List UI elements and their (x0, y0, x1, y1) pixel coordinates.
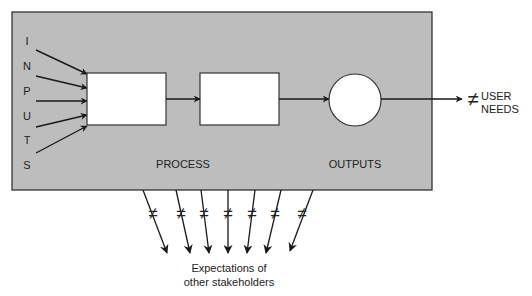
not-equal-icon: ≠ (297, 204, 306, 223)
inputs-letter: S (23, 159, 30, 171)
inputs-letter: U (23, 110, 31, 122)
inputs-letter: I (25, 35, 28, 47)
user-needs-line1: USER (481, 90, 512, 102)
process-label: PROCESS (156, 158, 210, 170)
not-equal-icon: ≠ (270, 204, 279, 223)
not-equal-icon: ≠ (176, 204, 185, 223)
process-box-1 (87, 73, 166, 125)
outputs-label: OUTPUTS (329, 158, 382, 170)
not-equal-icon: ≠ (468, 88, 479, 110)
not-equal-icon: ≠ (148, 204, 157, 223)
stakeholders-line2: other stakeholders (184, 276, 275, 288)
stakeholders-line1: Expectations of (191, 262, 267, 274)
inputs-letter: P (23, 85, 30, 97)
process-box-2 (200, 73, 279, 125)
system-diagram: I N P U T S ≠ USER NEEDS PROCESS OUTPUTS (0, 0, 532, 296)
not-equal-icon: ≠ (247, 204, 256, 223)
stakeholder-not-equal-marks: ≠ ≠ ≠ ≠ ≠ ≠ ≠ (148, 204, 306, 223)
inputs-letter: T (24, 134, 31, 146)
inputs-letter: N (23, 60, 31, 72)
output-node (329, 74, 381, 126)
user-needs-line2: NEEDS (481, 103, 519, 115)
not-equal-icon: ≠ (223, 204, 232, 223)
not-equal-icon: ≠ (199, 204, 208, 223)
